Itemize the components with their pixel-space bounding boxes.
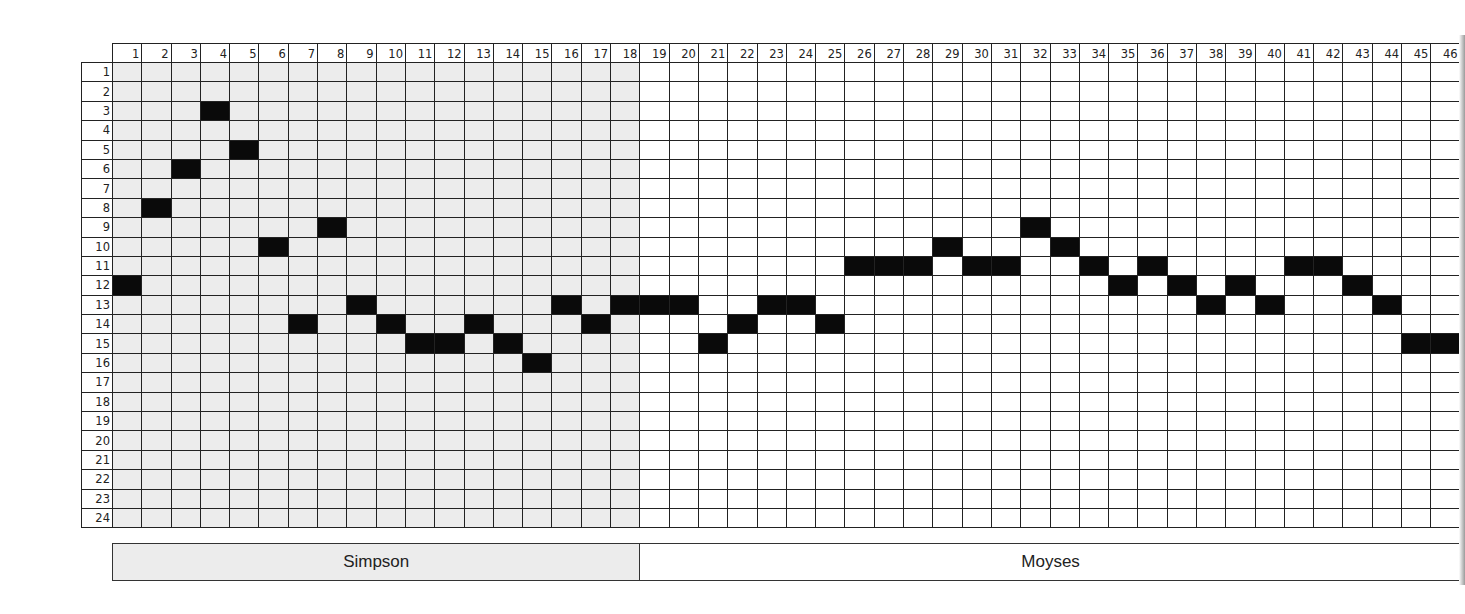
grid-cell xyxy=(1196,373,1225,392)
grid-cell xyxy=(523,334,552,353)
grid-cell xyxy=(376,237,405,256)
grid-cell xyxy=(1050,63,1079,82)
grid-cell xyxy=(1138,63,1167,82)
grid-cell xyxy=(1431,179,1460,198)
grid-cell xyxy=(1314,508,1343,527)
grid-cell xyxy=(962,470,991,489)
grid-cell xyxy=(1196,198,1225,217)
grid-cell xyxy=(1138,237,1167,256)
grid-cell xyxy=(698,508,727,527)
grid-cell xyxy=(933,140,962,159)
grid-cell xyxy=(1109,431,1138,450)
grid-cell xyxy=(493,256,522,275)
grid-row: 15 xyxy=(82,334,1461,353)
grid-cell xyxy=(200,450,229,469)
grid-cell xyxy=(1284,392,1313,411)
grid-cell xyxy=(347,353,376,372)
grid-cell xyxy=(288,218,317,237)
grid-cell xyxy=(991,121,1020,140)
grid-cell xyxy=(113,508,142,527)
grid-cell xyxy=(405,101,434,120)
filled-cell xyxy=(1255,295,1284,314)
grid-cell xyxy=(1138,140,1167,159)
grid-cell xyxy=(1431,198,1460,217)
grid-cell xyxy=(347,373,376,392)
grid-cell xyxy=(142,373,171,392)
grid-cell xyxy=(523,276,552,295)
grid-cell xyxy=(698,121,727,140)
grid-cell xyxy=(581,373,610,392)
grid-cell xyxy=(376,489,405,508)
grid-cell xyxy=(874,373,903,392)
grid-cell xyxy=(376,198,405,217)
grid-cell xyxy=(1284,159,1313,178)
grid-cell xyxy=(611,470,640,489)
grid-cell xyxy=(728,159,757,178)
grid-cell xyxy=(1226,82,1255,101)
grid-cell xyxy=(991,63,1020,82)
grid-cell xyxy=(904,63,933,82)
grid-cell xyxy=(435,353,464,372)
grid-cell xyxy=(669,450,698,469)
grid-cell xyxy=(581,412,610,431)
grid-cell xyxy=(113,392,142,411)
grid-cell xyxy=(288,159,317,178)
grid-cell xyxy=(493,353,522,372)
row-header: 16 xyxy=(82,353,113,372)
grid-cell xyxy=(318,198,347,217)
grid-cell xyxy=(405,179,434,198)
grid-cell xyxy=(464,412,493,431)
grid-cell xyxy=(904,489,933,508)
grid-cell xyxy=(523,121,552,140)
grid-cell xyxy=(435,276,464,295)
grid-cell xyxy=(1079,140,1108,159)
grid-cell xyxy=(1079,392,1108,411)
grid-cell xyxy=(1402,140,1431,159)
grid-cell xyxy=(1021,315,1050,334)
grid-cell xyxy=(200,159,229,178)
grid-cell xyxy=(933,334,962,353)
filled-cell xyxy=(552,295,581,314)
grid-cell xyxy=(640,218,669,237)
grid-cell xyxy=(904,276,933,295)
grid-cell xyxy=(816,353,845,372)
grid-cell xyxy=(318,450,347,469)
grid-cell xyxy=(816,218,845,237)
grid-cell xyxy=(1196,101,1225,120)
grid-cell xyxy=(786,82,815,101)
grid-cell xyxy=(1167,63,1196,82)
grid-cell xyxy=(435,508,464,527)
column-header: 40 xyxy=(1255,44,1284,63)
grid-cell xyxy=(1226,256,1255,275)
grid-cell xyxy=(904,140,933,159)
grid-cell xyxy=(1109,237,1138,256)
grid-cell xyxy=(376,334,405,353)
grid-cell xyxy=(1284,450,1313,469)
grid-cell xyxy=(845,237,874,256)
grid-cell xyxy=(669,140,698,159)
grid-cell xyxy=(1284,121,1313,140)
grid-cell xyxy=(1284,412,1313,431)
grid-cell xyxy=(1314,237,1343,256)
grid-cell xyxy=(1402,121,1431,140)
grid-cell xyxy=(552,237,581,256)
grid-cell xyxy=(142,63,171,82)
grid-cell xyxy=(288,82,317,101)
grid-cell xyxy=(904,450,933,469)
grid-cell xyxy=(933,315,962,334)
grid-cell xyxy=(347,508,376,527)
grid-cell xyxy=(1284,315,1313,334)
grid-cell xyxy=(405,63,434,82)
grid-cell xyxy=(1255,334,1284,353)
grid-cell xyxy=(1314,353,1343,372)
grid-cell xyxy=(230,334,259,353)
grid-cell xyxy=(288,256,317,275)
grid-cell xyxy=(962,295,991,314)
grid-cell xyxy=(1284,373,1313,392)
grid-cell xyxy=(933,198,962,217)
grid-cell xyxy=(816,412,845,431)
grid-cell xyxy=(318,431,347,450)
grid-cell xyxy=(1402,256,1431,275)
filled-cell xyxy=(786,295,815,314)
grid-cell xyxy=(698,237,727,256)
